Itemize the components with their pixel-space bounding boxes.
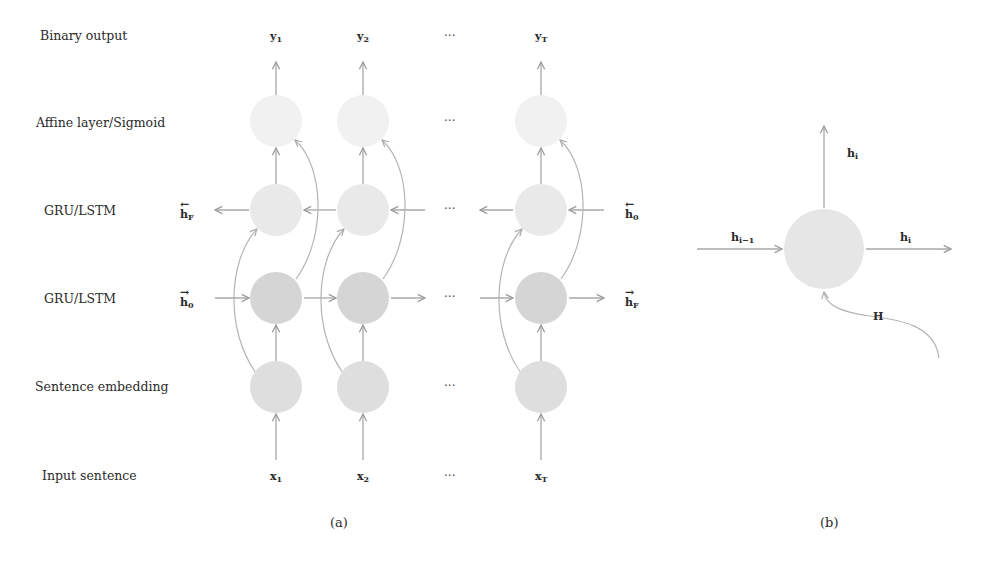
row-label-input-sentence: Input sentence xyxy=(42,468,137,483)
skip-connections xyxy=(234,140,583,373)
svg-text:h0: h0 xyxy=(625,208,639,222)
output-ellipsis: ··· xyxy=(444,29,455,43)
label-H: H xyxy=(873,310,883,323)
embedding-nodes xyxy=(250,361,567,413)
row-label-affine: Affine layer/Sigmoid xyxy=(35,115,165,130)
label-hi-minus-1: hi−1 xyxy=(731,231,754,245)
backward-state-hF-label: ← hF xyxy=(180,198,194,222)
backward-ellipsis: ··· xyxy=(444,202,455,216)
affine-nodes xyxy=(250,95,567,147)
svg-text:h0: h0 xyxy=(180,296,194,310)
label-hi-right: hi xyxy=(900,231,911,245)
affine-node-1 xyxy=(250,95,302,147)
svg-text:yT: yT xyxy=(534,30,547,44)
forward-state-hF-label: → hF xyxy=(625,286,639,310)
affine-node-2 xyxy=(337,95,389,147)
svg-text:hF: hF xyxy=(625,296,639,310)
backward-state-h0-label: ← h0 xyxy=(625,198,639,222)
svg-text:hi: hi xyxy=(900,231,911,245)
svg-text:y2: y2 xyxy=(356,30,369,44)
svg-text:xT: xT xyxy=(535,470,548,484)
forward-node-1 xyxy=(250,272,302,324)
row-label-sentence-embedding: Sentence embedding xyxy=(35,379,169,394)
svg-text:hF: hF xyxy=(180,208,194,222)
embedding-node-2 xyxy=(337,361,389,413)
embedding-node-1 xyxy=(250,361,302,413)
cell-node xyxy=(784,209,864,289)
caption-b: (b) xyxy=(820,515,838,530)
backward-node-2 xyxy=(337,184,389,236)
row-label-binary-output: Binary output xyxy=(40,28,127,43)
forward-ellipsis: ··· xyxy=(444,290,455,304)
svg-text:hi: hi xyxy=(847,147,858,161)
output-label-y1: y1 xyxy=(269,30,282,44)
forward-state-h0-label: → h0 xyxy=(180,286,194,310)
panel-a: Binary output Affine layer/Sigmoid GRU/L… xyxy=(35,28,639,530)
panel-b: hi hi−1 hi H (b) xyxy=(697,126,951,530)
output-label-y2: y2 xyxy=(356,30,369,44)
svg-text:x2: x2 xyxy=(357,470,369,484)
embedding-node-T xyxy=(515,361,567,413)
svg-text:hi−1: hi−1 xyxy=(731,231,754,245)
forward-node-2 xyxy=(337,272,389,324)
caption-a: (a) xyxy=(330,515,348,530)
affine-ellipsis: ··· xyxy=(444,114,455,128)
figure: Binary output Affine layer/Sigmoid GRU/L… xyxy=(0,0,984,561)
svg-text:x1: x1 xyxy=(270,470,282,484)
label-hi-up: hi xyxy=(847,147,858,161)
row-label-gru-forward: GRU/LSTM xyxy=(44,291,116,306)
backward-node-T xyxy=(515,184,567,236)
vertical-edges xyxy=(276,62,541,460)
input-label-x2: x2 xyxy=(357,470,369,484)
row-label-gru-backward: GRU/LSTM xyxy=(44,203,116,218)
figure-svg: Binary output Affine layer/Sigmoid GRU/L… xyxy=(0,0,984,561)
backward-node-1 xyxy=(250,184,302,236)
svg-text:y1: y1 xyxy=(269,30,282,44)
input-label-xT: xT xyxy=(535,470,548,484)
h-input-curve xyxy=(824,292,939,358)
affine-node-T xyxy=(515,95,567,147)
forward-node-T xyxy=(515,272,567,324)
input-label-x1: x1 xyxy=(270,470,282,484)
output-label-yT: yT xyxy=(534,30,547,44)
embedding-ellipsis: ··· xyxy=(444,379,455,393)
input-ellipsis: ··· xyxy=(444,469,455,483)
